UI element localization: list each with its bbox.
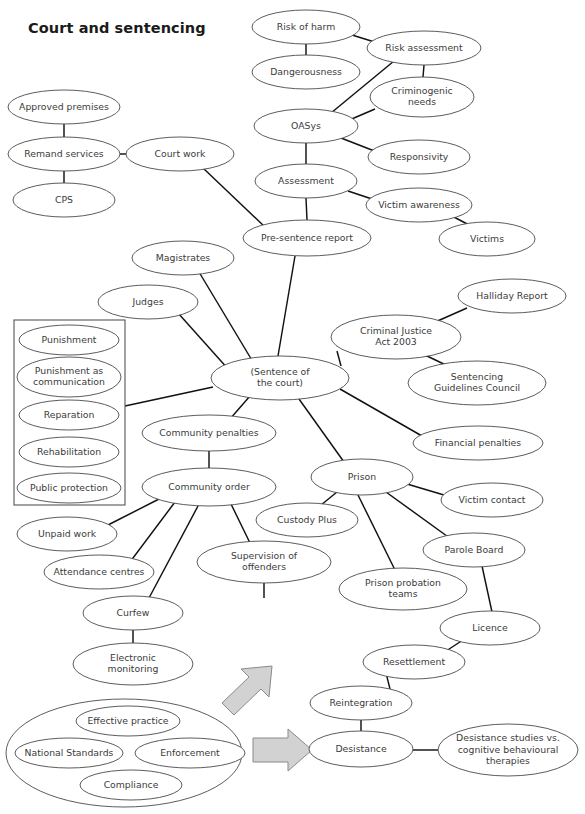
- node-custody_plus[interactable]: Custody Plus: [256, 503, 358, 537]
- edge-sentence_of_court-to-community_penalties: [230, 396, 250, 419]
- node-desistance[interactable]: Desistance: [309, 731, 413, 767]
- node-label: Risk of harm: [277, 21, 335, 32]
- node-curfew[interactable]: Curfew: [83, 596, 183, 630]
- node-approved_premises[interactable]: Approved premises: [8, 90, 120, 124]
- node-label: Resettlement: [383, 656, 446, 667]
- node-licence[interactable]: Licence: [440, 611, 540, 645]
- node-dangerousness[interactable]: Dangerousness: [252, 55, 360, 89]
- node-victim_contact[interactable]: Victim contact: [441, 483, 543, 517]
- node-effective_practice[interactable]: Effective practice: [76, 706, 180, 736]
- node-label: Sentencing: [451, 371, 503, 382]
- edge-sentencing_aims_panel-to-sentence_of_court: [125, 387, 213, 406]
- edge-risk_assessment-to-criminogenic_needs: [423, 65, 424, 77]
- node-parole_board[interactable]: Parole Board: [423, 533, 525, 567]
- edge-community_order-to-curfew: [149, 506, 198, 598]
- edge-community_order-to-supervision: [231, 504, 250, 543]
- node-risk_of_harm[interactable]: Risk of harm: [252, 10, 360, 44]
- node-label: Compliance: [104, 779, 159, 790]
- node-label: Attendance centres: [54, 566, 145, 577]
- node-label: Halliday Report: [476, 290, 548, 301]
- node-label: Remand services: [24, 148, 104, 159]
- node-risk_assessment[interactable]: Risk assessment: [367, 31, 481, 65]
- node-label: Community order: [168, 481, 250, 492]
- node-unpaid_work[interactable]: Unpaid work: [17, 517, 117, 551]
- node-label: Community penalties: [159, 427, 259, 438]
- edge-prison-to-custody_plus: [321, 492, 337, 505]
- node-oasys[interactable]: OASys: [254, 109, 358, 143]
- node-label: Magistrates: [156, 252, 211, 263]
- node-label: Responsivity: [390, 151, 449, 162]
- node-victim_awareness[interactable]: Victim awareness: [366, 188, 472, 222]
- panel-item-punishment_comm[interactable]: Punishment ascommunication: [17, 357, 121, 397]
- node-halliday_report[interactable]: Halliday Report: [458, 279, 566, 313]
- node-label: monitoring: [108, 663, 159, 674]
- concept-map-canvas: Risk of harmRisk assessmentDangerousness…: [0, 0, 585, 814]
- arrow-right-icon: [253, 729, 312, 771]
- node-label: Prison probation: [365, 577, 441, 588]
- node-label: Court work: [155, 148, 207, 159]
- node-label: Parole Board: [445, 544, 504, 555]
- edge-sentence_of_court-to-financial_penalties: [340, 389, 422, 436]
- node-enforcement[interactable]: Enforcement: [135, 738, 245, 768]
- node-label: Reparation: [44, 409, 95, 420]
- node-attendance_centres[interactable]: Attendance centres: [44, 555, 154, 589]
- node-financial_penalties[interactable]: Financial penalties: [413, 426, 543, 460]
- node-label: Financial penalties: [435, 437, 521, 448]
- edge-pre_sentence_report-to-sentence_of_court: [278, 256, 295, 356]
- edge-sentence_of_court-to-prison: [299, 399, 344, 462]
- node-label: OASys: [291, 120, 321, 131]
- node-prison[interactable]: Prison: [311, 459, 413, 495]
- edge-assessment-to-pre_sentence_report: [306, 198, 307, 220]
- node-label: Victim contact: [459, 494, 526, 505]
- arrow-diagonal-up-icon: [222, 666, 272, 715]
- node-assessment[interactable]: Assessment: [255, 164, 357, 198]
- concept-map-root: Risk of harmRisk assessmentDangerousness…: [0, 0, 585, 814]
- node-compliance[interactable]: Compliance: [80, 770, 182, 800]
- node-responsivity[interactable]: Responsivity: [368, 140, 470, 174]
- node-community_penalties[interactable]: Community penalties: [142, 415, 276, 451]
- node-label: cognitive behavioural: [458, 744, 559, 755]
- node-label: Punishment as: [35, 365, 104, 376]
- node-electronic_monitoring[interactable]: Electronicmonitoring: [73, 643, 193, 685]
- node-label: Risk assessment: [385, 42, 463, 53]
- edge-parole_board-to-licence: [482, 566, 492, 612]
- panel-item-punishment[interactable]: Punishment: [19, 325, 119, 355]
- panel-item-rehabilitation[interactable]: Rehabilitation: [19, 437, 119, 467]
- node-remand_services[interactable]: Remand services: [8, 137, 120, 171]
- node-magistrates[interactable]: Magistrates: [132, 241, 234, 275]
- node-label: Punishment: [42, 334, 97, 345]
- node-criminal_justice_act[interactable]: Criminal JusticeAct 2003: [331, 315, 461, 359]
- node-label: the court): [257, 377, 303, 388]
- node-pre_sentence_report[interactable]: Pre-sentence report: [243, 220, 371, 256]
- panel-item-public_protection[interactable]: Public protection: [17, 473, 121, 503]
- node-cps[interactable]: CPS: [13, 183, 115, 217]
- node-label: Curfew: [117, 607, 150, 618]
- edge-judges-to-sentence_of_court: [178, 313, 229, 370]
- panel-item-reparation[interactable]: Reparation: [19, 400, 119, 430]
- edge-community_order-to-unpaid_work: [108, 497, 163, 525]
- node-judges[interactable]: Judges: [98, 285, 198, 319]
- node-label: Licence: [472, 622, 508, 633]
- node-label: Desistance: [335, 743, 386, 754]
- node-label: offenders: [242, 561, 286, 572]
- node-label: Enforcement: [160, 747, 220, 758]
- node-sentence_of_court[interactable]: (Sentence ofthe court): [211, 356, 349, 400]
- node-national_standards[interactable]: National Standards: [15, 738, 123, 768]
- node-label: Rehabilitation: [37, 446, 101, 457]
- node-reintegration[interactable]: Reintegration: [310, 686, 412, 720]
- node-desistance_studies[interactable]: Desistance studies vs.cognitive behaviou…: [438, 724, 578, 776]
- node-label: teams: [389, 588, 418, 599]
- edge-criminal_justice_act-to-sentence_of_court: [337, 351, 341, 366]
- node-resettlement[interactable]: Resettlement: [363, 645, 465, 679]
- node-sentencing_guidelines[interactable]: SentencingGuidelines Council: [408, 361, 546, 405]
- node-prison_probation[interactable]: Prison probationteams: [339, 568, 467, 610]
- node-victims[interactable]: Victims: [439, 222, 535, 256]
- node-supervision[interactable]: Supervision ofoffenders: [197, 541, 331, 583]
- node-court_work[interactable]: Court work: [126, 137, 234, 171]
- node-label: Public protection: [30, 482, 108, 493]
- node-label: (Sentence of: [250, 366, 310, 377]
- node-community_order[interactable]: Community order: [142, 468, 276, 506]
- node-criminogenic_needs[interactable]: Criminogenicneeds: [370, 77, 474, 117]
- node-label: communication: [33, 376, 105, 387]
- edge-prison-to-victim_contact: [407, 484, 444, 495]
